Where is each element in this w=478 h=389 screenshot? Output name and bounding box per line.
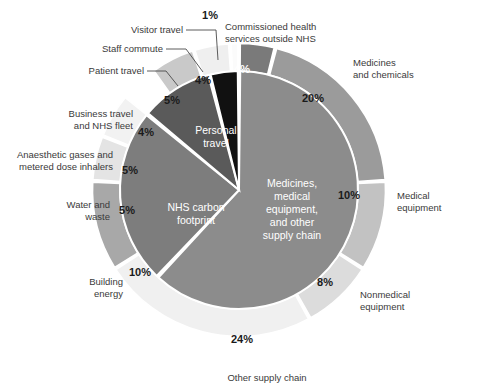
label-commissioned-line2: services outside NHS: [225, 33, 316, 44]
label-medical-equipment-line1: Medical: [397, 190, 430, 201]
label-visitor-travel: Visitor travel: [131, 24, 183, 35]
label-other-supply-chain: Other supply chain: [227, 372, 306, 383]
label-medicines-chemicals-line2: and chemicals: [353, 69, 414, 80]
inner-label-supply-line1: Medicines,: [267, 177, 317, 189]
label-anaesthetic-line2: metered dose inhalers: [19, 161, 113, 172]
percent-visitor-travel: 1%: [202, 9, 218, 21]
inner-label-supply-line2: medical: [274, 190, 310, 202]
label-building-energy-line2: energy: [94, 288, 123, 299]
label-staff-commute: Staff commute: [102, 43, 163, 54]
percent-nonmedical-equipment: 8%: [317, 276, 333, 288]
label-anaesthetic-line1: Anaesthetic gases and: [17, 149, 113, 160]
donut-chart-svg: NHS carbon footprint Personal travel Med…: [0, 0, 478, 389]
percent-commissioned: 4%: [234, 63, 250, 75]
inner-label-personal-line1: Personal: [195, 124, 236, 136]
label-nonmedical-line2: equipment: [360, 301, 405, 312]
percent-building-energy: 10%: [129, 266, 151, 278]
label-building-energy-line1: Building: [89, 276, 123, 287]
label-medicines-chemicals-line1: Medicines: [353, 57, 396, 68]
percent-business-travel: 4%: [138, 126, 154, 138]
percent-medicines-chemicals: 20%: [302, 92, 324, 104]
percent-anaesthetic: 5%: [122, 164, 138, 176]
inner-label-nhs-line1: NHS carbon: [167, 201, 224, 213]
label-water-waste-line1: Water and: [67, 199, 110, 210]
percent-staff-commute: 4%: [195, 74, 211, 86]
percent-medical-equipment: 10%: [338, 189, 360, 201]
label-business-travel-line1: Business travel: [69, 108, 133, 119]
label-nonmedical-line1: Nonmedical: [360, 289, 410, 300]
label-medical-equipment-line2: equipment: [397, 202, 442, 213]
label-patient-travel: Patient travel: [89, 65, 144, 76]
inner-label-nhs-line2: footprint: [177, 214, 215, 226]
pie-chart-figure: NHS carbon footprint Personal travel Med…: [0, 0, 478, 389]
label-water-waste-line2: waste: [84, 211, 110, 222]
inner-label-personal-line2: travel: [203, 137, 229, 149]
percent-patient-travel: 5%: [164, 94, 180, 106]
percent-other-supply-chain: 24%: [231, 333, 253, 345]
inner-label-supply-line5: supply chain: [263, 229, 322, 241]
inner-label-supply-line4: and other: [270, 216, 315, 228]
label-business-travel-line2: and NHS fleet: [74, 120, 134, 131]
percent-water-waste: 5%: [119, 204, 135, 216]
label-commissioned-line1: Commissioned health: [225, 21, 316, 32]
inner-label-supply-line3: equipment,: [266, 203, 318, 215]
inner-pie-group: [120, 71, 358, 309]
